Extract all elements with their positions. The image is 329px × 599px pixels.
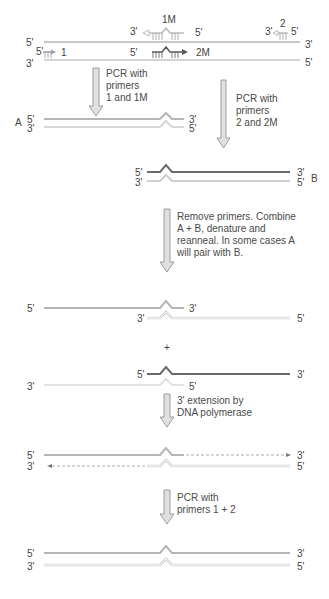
step-arrow-pcr-b: [217, 80, 230, 148]
step-arrow-extension: [160, 394, 174, 427]
primer-1M-5prime: 5': [195, 27, 202, 38]
annealed-1-bottom-right-end: 5': [297, 313, 304, 324]
extended-top-right-end: 3': [297, 450, 304, 461]
final-bottom-right-end: 5': [297, 561, 304, 572]
product-b-bottom-left-end: 3': [135, 177, 142, 188]
step-arrow-pcr-a: [89, 68, 103, 116]
primer-1M-label: 1M: [162, 14, 176, 25]
annealed-pair-2: [44, 367, 290, 385]
annealed-pair-1: [44, 301, 290, 318]
annealed-2-bottom-right-end: 5': [189, 381, 196, 392]
product-a-bottom-left-end: 3': [27, 123, 34, 134]
primer-2-arrow: [273, 31, 288, 41]
primer-2M-arrow: [152, 47, 188, 58]
primer-1M-3prime: 3': [130, 26, 137, 37]
step-arrow-final-pcr: [160, 490, 174, 524]
step-pcr-a-text: PCR with primers 1 and 1M: [106, 68, 148, 104]
annealed-2-top-right-end: 3': [297, 369, 304, 380]
primer-2M-5prime: 5': [130, 47, 137, 58]
product-a-label: A: [15, 117, 22, 128]
product-a-duplex: [44, 113, 184, 127]
product-b-duplex: [147, 165, 290, 181]
final-bottom-left-end: 3': [27, 561, 34, 572]
step-pcr-b-text: PCR with primers 2 and 2M: [236, 93, 278, 129]
primer-2-label: 2: [280, 18, 286, 29]
primer-1-5prime: 5': [36, 46, 43, 57]
extended-bottom-right-end: 5': [297, 461, 304, 472]
template-top-left-end: 5': [26, 37, 33, 48]
annealed-2-top-left-end: 5': [137, 369, 144, 380]
annealed-2-bottom-left-end: 3': [27, 381, 34, 392]
annealed-1-top-left-end: 5': [27, 303, 34, 314]
product-b-label: B: [311, 173, 318, 184]
diagram-canvas: [0, 0, 329, 599]
step-arrow-combine: [160, 209, 174, 272]
step-combine-text: Remove primers. Combine A + B, denature …: [177, 211, 296, 259]
primer-1-arrow: [43, 50, 56, 59]
step-extension-text: 3' extension by DNA polymerase: [177, 395, 252, 419]
plus-sign: +: [164, 342, 170, 353]
template-top-right-end: 3': [305, 39, 312, 50]
annealed-1-top-right-end: 3': [189, 303, 196, 314]
primer-2M-label: 2M: [196, 47, 210, 58]
primer-2-3prime: 3': [265, 26, 272, 37]
annealed-1-bottom-left-end: 3': [137, 313, 144, 324]
product-a-bottom-right-end: 5': [189, 123, 196, 134]
template-bottom-right-end: 5': [305, 57, 312, 68]
primer-2-5prime: 5': [291, 26, 298, 37]
primer-1-label: 1: [61, 47, 67, 58]
extended-duplex: [44, 448, 291, 468]
final-duplex: [44, 546, 290, 565]
extended-bottom-left-end: 3': [27, 461, 34, 472]
template-bottom-left-end: 3': [26, 58, 33, 69]
extended-top-left-end: 5': [27, 450, 34, 461]
product-b-bottom-right-end: 5': [297, 177, 304, 188]
final-top-left-end: 5': [27, 548, 34, 559]
primer-1M-arrow: [143, 28, 184, 40]
final-top-right-end: 3': [297, 548, 304, 559]
step-final-pcr-text: PCR with primers 1 + 2: [177, 492, 236, 516]
